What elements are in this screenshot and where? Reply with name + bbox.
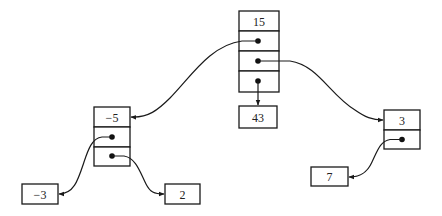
root-value: 15 — [253, 15, 265, 29]
node-root: 15 — [239, 11, 279, 92]
node-mid-leaf: 43 — [239, 106, 277, 128]
right-value: 3 — [399, 114, 405, 128]
node-left-left-leaf: −3 — [22, 184, 58, 204]
node-right: 3 — [384, 110, 420, 149]
node-left-right-leaf: 2 — [165, 184, 200, 204]
left-value: −5 — [106, 111, 119, 125]
left-left-leaf-value: −3 — [34, 188, 47, 202]
pointer-tree-diagram: 15 43 −5 3 −3 2 7 — [0, 0, 442, 216]
right-leaf-value: 7 — [327, 170, 333, 184]
left-right-leaf-value: 2 — [180, 188, 186, 202]
node-right-leaf: 7 — [311, 167, 348, 186]
mid-leaf-value: 43 — [252, 111, 264, 125]
